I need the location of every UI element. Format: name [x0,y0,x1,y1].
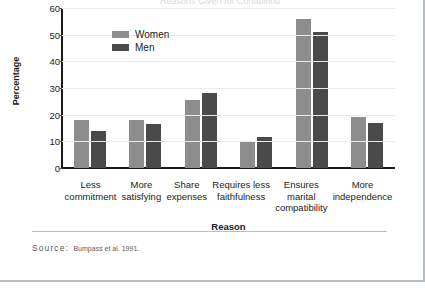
legend-swatch-icon [112,31,129,38]
y-tick-mark [59,35,62,36]
source-label: Source: [32,243,69,253]
x-tick-label: Less commitment [65,179,117,214]
y-tick-label: 40 [4,57,60,66]
gridline [62,61,395,62]
x-tick-label: Requires less faithfulness [212,179,270,214]
x-axis-tick-labels: Less commitmentMore satisfyingShare expe… [62,179,395,214]
source-divider [32,231,387,232]
y-axis-tick-labels: 0102030405060 [0,8,60,168]
gridline [62,8,395,9]
legend-swatch-icon [112,44,129,51]
bar-women [185,100,200,168]
y-tick-label: 0 [4,164,60,173]
y-tick-label: 50 [4,31,60,40]
y-tick-mark [59,141,62,142]
x-tick-label: Share expenses [166,179,207,214]
y-tick-mark [59,8,62,9]
legend: WomenMen [112,28,169,54]
y-tick-mark [59,168,62,169]
y-tick-mark [59,88,62,89]
bar-women [296,19,311,168]
bar-men [202,93,217,168]
source-citation: Bumpass et al. 1991. [73,245,139,252]
y-tick-label: 20 [4,111,60,120]
legend-label: Men [135,42,154,53]
chart-title-clipped: Reasons Given for Cohabiting [85,0,355,4]
y-tick-label: 10 [4,137,60,146]
bar-men [146,124,161,168]
gridline [62,88,395,89]
y-tick-label: 30 [4,84,60,93]
bar-women [74,120,89,168]
y-tick-mark [59,61,62,62]
chart-area: Percentage 0102030405060 WomenMen Less c… [0,8,425,208]
legend-item: Men [112,41,169,53]
page-frame-bottom-rule [0,280,425,282]
y-tick-mark [59,115,62,116]
x-tick-label: More satisfying [122,179,162,214]
x-tick-label: More independence [333,179,393,214]
bar-women [129,120,144,168]
bar-men [313,32,328,168]
y-tick-label: 60 [4,4,60,13]
legend-item: Women [112,28,169,40]
source-note: Source: Bumpass et al. 1991. [32,237,139,255]
legend-label: Women [135,29,169,40]
x-tick-label: Ensures marital compatibility [275,179,327,214]
bar-women [240,141,255,168]
bar-women [351,117,366,168]
figure-page: Reasons Given for Cohabiting Percentage … [0,0,425,289]
bar-men [368,123,383,168]
bar-men [91,131,106,168]
gridline [62,115,395,116]
gridline [62,141,395,142]
